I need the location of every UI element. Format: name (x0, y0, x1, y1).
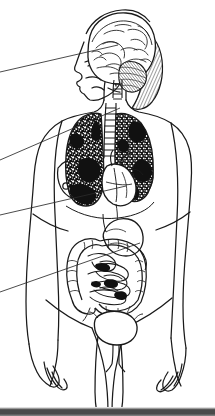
bottom-border-band (0, 407, 215, 416)
anatomy-illustration: Brain (cerebrum) Cerebellum (0, 0, 215, 416)
anatomy-figure-page: { "image": { "title": "Female anatomical… (0, 0, 215, 416)
